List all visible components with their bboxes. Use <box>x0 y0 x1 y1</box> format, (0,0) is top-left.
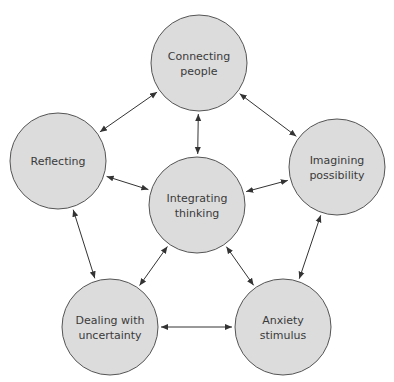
arrow-connecting-imagining <box>240 94 297 137</box>
node-anxiety: Anxietystimulus <box>235 279 331 375</box>
node-integrating: Integratingthinking <box>149 157 245 253</box>
integrating-thinking-diagram: ConnectingpeopleReflectingImaginingpossi… <box>0 0 394 382</box>
node-label: people <box>180 65 218 78</box>
node-label: stimulus <box>260 329 307 342</box>
node-circle <box>289 119 385 215</box>
node-connecting: Connectingpeople <box>151 15 247 111</box>
node-label: Anxiety <box>262 314 304 327</box>
arrow-integrating-dealing <box>140 247 168 286</box>
concept-nodes: ConnectingpeopleReflectingImaginingpossi… <box>10 15 385 375</box>
node-label: Integrating <box>167 192 228 205</box>
arrow-imagining-anxiety <box>299 215 320 278</box>
node-imagining: Imaginingpossibility <box>289 119 385 215</box>
node-label: Dealing with <box>76 314 145 327</box>
arrow-connecting-integrating <box>198 114 199 154</box>
node-circle <box>151 15 247 111</box>
arrow-imagining-integrating <box>246 180 288 191</box>
arrow-reflecting-dealing <box>73 210 95 279</box>
node-reflecting: Reflecting <box>10 113 106 209</box>
node-label: Reflecting <box>31 155 86 168</box>
node-label: Imagining <box>310 154 365 167</box>
node-dealing: Dealing withuncertainty <box>62 279 158 375</box>
node-circle <box>149 157 245 253</box>
arrow-integrating-anxiety <box>226 247 253 286</box>
node-circle <box>235 279 331 375</box>
arrow-connecting-reflecting <box>100 92 157 132</box>
node-label: possibility <box>309 169 365 182</box>
node-label: uncertainty <box>78 329 142 342</box>
node-label: Connecting <box>168 50 231 63</box>
arrow-reflecting-integrating <box>107 176 149 189</box>
node-label: thinking <box>175 207 220 220</box>
node-circle <box>62 279 158 375</box>
